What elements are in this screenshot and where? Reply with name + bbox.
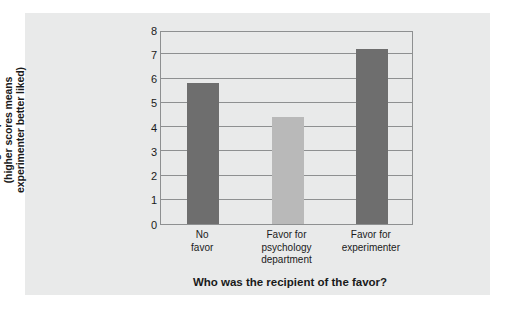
y-tick-label-3: 3 [139,147,157,158]
x-category-label-1-line-2: favor [191,242,213,253]
y-axis-title-line-3: experimenter better liked) [14,67,26,193]
y-tick-label-7: 7 [139,50,157,61]
y-tick-label-2: 2 [139,171,157,182]
x-category-label-2-line-2: psychology [261,242,311,253]
x-axis-category-labels: NofavorFavor forpsychologydepartmentFavo… [160,229,413,274]
y-tick-label-1: 1 [139,195,157,206]
x-category-label-1: Nofavor [160,229,244,254]
y-axis-tick-labels: 876543210 [137,31,157,225]
x-category-label-2-line-3: department [261,254,312,265]
x-category-label-3-line-1: Favor for [351,229,391,240]
x-category-label-3: Favor forexperimenter [329,229,413,254]
y-tick-label-8: 8 [139,26,157,37]
y-tick-label-5: 5 [139,98,157,109]
plot-area [160,31,413,225]
bar-1 [187,83,219,224]
x-category-label-1-line-1: No [196,229,209,240]
y-tick-label-6: 6 [139,74,157,85]
x-category-label-3-line-2: experimenter [342,242,400,253]
y-axis-title: Rating of experimenter (higher scores me… [0,30,38,230]
x-axis-title: Who was the recipient of the favor? [130,276,450,288]
y-tick-label-4: 4 [139,123,157,134]
bar-2 [272,117,304,224]
y-axis-title-line-2: (higher scores means [2,77,14,184]
bar-3 [356,49,388,224]
x-category-label-2: Favor forpsychologydepartment [244,229,328,267]
bar-chart-figure: Rating of experimenter (higher scores me… [0,0,515,313]
x-category-label-2-line-1: Favor for [266,229,306,240]
y-tick-label-0: 0 [139,220,157,231]
